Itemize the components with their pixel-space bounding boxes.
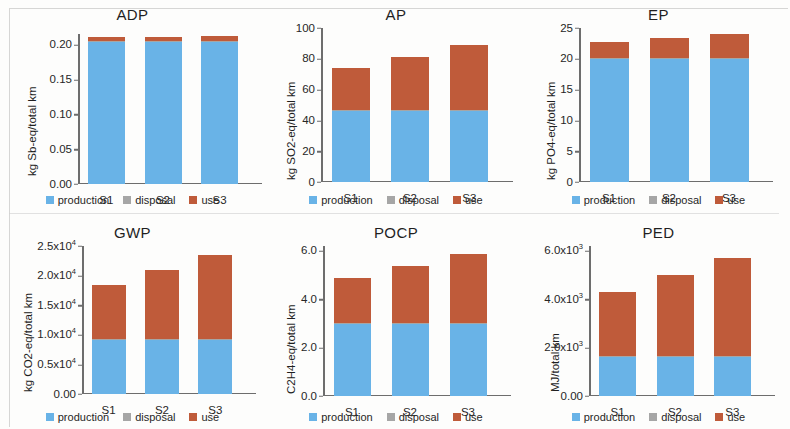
legend-label: disposal	[135, 194, 175, 206]
legend-item-production[interactable]: production	[572, 411, 635, 423]
legend-item-disposal[interactable]: disposal	[387, 194, 439, 206]
tick-exponent: 4	[72, 356, 76, 365]
legend-label: use	[465, 411, 483, 423]
bar-segment-disposal	[590, 58, 629, 59]
bar-segment-production	[710, 59, 749, 182]
legend-item-production[interactable]: production	[46, 411, 109, 423]
bar-s3[interactable]	[450, 246, 487, 396]
bar-s2[interactable]	[145, 34, 182, 184]
y-axis-label: kg SO2-eq/total km	[285, 82, 297, 180]
legend-item-use[interactable]: use	[715, 194, 745, 206]
chart-legend: productiondisposaluse	[0, 194, 265, 206]
chart-title: POCP	[265, 224, 527, 241]
y-axis-tick-label: 4.0	[301, 293, 317, 305]
bar-segment-disposal	[450, 110, 488, 111]
legend-item-use[interactable]: use	[189, 411, 219, 423]
y-axis-tick-label: 0.0	[301, 390, 317, 402]
legend-swatch-use-icon	[715, 413, 723, 421]
y-axis-tick-label: 40	[302, 115, 315, 127]
bar-segment-use	[450, 45, 488, 110]
bar-s3[interactable]	[198, 246, 232, 394]
y-axis-line	[321, 28, 323, 182]
bar-segment-use	[392, 266, 429, 323]
bar-segment-production	[590, 59, 629, 182]
legend-item-production[interactable]: production	[309, 411, 372, 423]
y-axis-tick-label: 100	[296, 22, 315, 34]
legend-swatch-disposal-icon	[387, 413, 395, 421]
tick-exponent: 4	[72, 297, 76, 306]
legend-swatch-disposal-icon	[123, 413, 131, 421]
legend-item-disposal[interactable]: disposal	[123, 194, 175, 206]
y-axis-tick-label: 5	[567, 145, 573, 157]
legend-label: use	[727, 194, 745, 206]
chart-title: ADP	[0, 6, 265, 23]
legend-item-disposal[interactable]: disposal	[649, 194, 701, 206]
tick-exponent: 4	[72, 267, 76, 276]
legend-label: production	[58, 194, 109, 206]
y-axis-tick-label: 15	[560, 84, 573, 96]
legend-item-use[interactable]: use	[453, 411, 483, 423]
bar-segment-disposal	[391, 110, 429, 111]
plot-area: 0.002.0x1034.0x1036.0x103	[589, 246, 761, 396]
legend-item-disposal[interactable]: disposal	[649, 411, 701, 423]
legend-item-production[interactable]: production	[46, 194, 109, 206]
bar-segment-use	[657, 275, 694, 356]
tick-exponent: 3	[579, 242, 583, 251]
y-axis-tick-label: 0.00	[54, 388, 76, 400]
bar-s2[interactable]	[650, 28, 689, 182]
bar-segment-production	[650, 59, 689, 182]
bar-segment-production	[201, 41, 238, 184]
legend-swatch-use-icon	[189, 196, 197, 204]
bar-s3[interactable]	[710, 28, 749, 182]
legend-swatch-disposal-icon	[387, 196, 395, 204]
y-axis-tick-label: 10	[560, 115, 573, 127]
bar-segment-use	[450, 254, 487, 323]
bar-segment-disposal	[334, 323, 371, 324]
bar-segment-production	[657, 357, 694, 396]
y-axis-tick-label: 0.20	[50, 39, 72, 51]
bar-segment-disposal	[710, 58, 749, 59]
legend-item-production[interactable]: production	[309, 194, 372, 206]
legend-item-use[interactable]: use	[715, 411, 745, 423]
chart-panel-ped: PEDMJ/total kmS1S2S30.002.0x1034.0x1036.…	[527, 214, 790, 429]
legend-item-production[interactable]: production	[572, 194, 635, 206]
legend-label: production	[321, 194, 372, 206]
bar-s3[interactable]	[201, 34, 238, 184]
y-axis-tick-label: 25	[560, 22, 573, 34]
bar-s1[interactable]	[334, 246, 371, 396]
bar-s2[interactable]	[391, 28, 429, 182]
bar-s3[interactable]	[714, 246, 751, 396]
y-axis-line	[579, 28, 581, 182]
bar-segment-disposal	[450, 323, 487, 324]
y-axis-tick-label: 4.0x103	[544, 293, 583, 305]
bar-s1[interactable]	[88, 34, 125, 184]
legend-item-disposal[interactable]: disposal	[123, 411, 175, 423]
bar-segment-use	[198, 255, 232, 339]
y-axis-tick-label: 0.00	[561, 390, 583, 402]
y-axis-tick-label: 2.0	[301, 342, 317, 354]
y-axis-tick-label: 0	[567, 176, 573, 188]
bar-s1[interactable]	[599, 246, 636, 396]
bar-segment-use	[92, 285, 126, 339]
bar-s1[interactable]	[92, 246, 126, 394]
bar-s1[interactable]	[590, 28, 629, 182]
bar-segment-disposal	[714, 356, 751, 357]
legend-swatch-use-icon	[715, 196, 723, 204]
bar-s1[interactable]	[332, 28, 370, 182]
y-axis-tick-label: 0.15	[50, 74, 72, 86]
legend-item-disposal[interactable]: disposal	[387, 411, 439, 423]
bar-segment-production	[334, 323, 371, 396]
y-axis-tick-label: 0.05	[50, 143, 72, 155]
y-axis-tick-label: 0	[309, 176, 315, 188]
bar-s2[interactable]	[657, 246, 694, 396]
bar-s3[interactable]	[450, 28, 488, 182]
legend-item-use[interactable]: use	[453, 194, 483, 206]
legend-label: use	[201, 194, 219, 206]
y-axis-tick-label: 80	[302, 53, 315, 65]
bar-segment-production	[599, 357, 636, 396]
bar-segment-production	[714, 357, 751, 396]
bar-s2[interactable]	[392, 246, 429, 396]
legend-item-use[interactable]: use	[189, 194, 219, 206]
bar-s2[interactable]	[145, 246, 179, 394]
bar-segment-use	[88, 37, 125, 41]
